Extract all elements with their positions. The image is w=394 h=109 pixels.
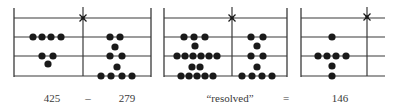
label-result: 146 (332, 91, 349, 105)
counter-dot (328, 33, 335, 40)
counter-dot (111, 43, 118, 50)
panel-resolved (164, 7, 287, 80)
counter-dot (196, 63, 203, 70)
counter-dot (323, 52, 330, 59)
counter-dot (113, 63, 120, 70)
counter-dot (328, 72, 335, 79)
counter-dot (118, 52, 125, 59)
counter-dot (177, 72, 184, 79)
counter-dot (47, 33, 54, 40)
label-resolved: “resolved” (206, 91, 253, 105)
counter-dot (193, 72, 200, 79)
counter-dot (328, 62, 335, 69)
counter-dot (253, 63, 260, 70)
counter-dot (44, 60, 51, 67)
counter-dot (57, 33, 64, 40)
counter-dot (247, 33, 254, 40)
counter-dot (128, 72, 135, 79)
counter-dot (259, 33, 266, 40)
counter-dot (188, 63, 195, 70)
counter-dot (29, 33, 36, 40)
counter-dot (238, 72, 245, 79)
counter-dot (173, 52, 180, 59)
counter-dot (118, 72, 125, 79)
counter-dot (314, 52, 321, 59)
counter-dot (106, 52, 113, 59)
counter-dot (190, 33, 197, 40)
panel-425-minus-279 (14, 7, 151, 80)
counter-dot (189, 52, 196, 59)
counter-dot (106, 33, 113, 40)
counter-dot (205, 52, 212, 59)
label-minuend: 425 (44, 91, 61, 105)
counter-dot (247, 52, 254, 59)
counter-dot (213, 52, 220, 59)
counter-dot (191, 42, 198, 49)
counter-dot (116, 33, 123, 40)
counter-dot (38, 52, 45, 59)
panel-146 (301, 7, 385, 80)
label-subtrahend: 279 (119, 91, 136, 105)
counter-dot (107, 72, 114, 79)
counter-dot (258, 72, 265, 79)
counter-dot (342, 52, 349, 59)
counter-dot (209, 72, 216, 79)
counter-dot (38, 33, 45, 40)
counter-dot (201, 72, 208, 79)
counter-dot (97, 72, 104, 79)
counter-dot (259, 52, 266, 59)
counter-dot (201, 33, 208, 40)
counter-dot (268, 72, 275, 79)
counter-dot (248, 72, 255, 79)
counter-dot (181, 52, 188, 59)
counter-dot (185, 72, 192, 79)
label-equals-sign: = (283, 91, 289, 105)
counter-dot (180, 33, 187, 40)
counter-dot (332, 52, 339, 59)
counter-dot (253, 42, 260, 49)
counter-dot (197, 52, 204, 59)
label-minus-sign: – (85, 91, 91, 105)
counter-dot (49, 52, 56, 59)
